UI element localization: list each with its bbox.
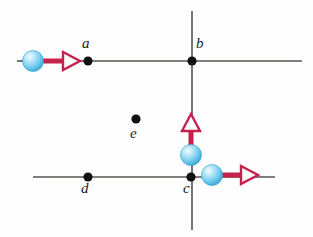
arrow-head <box>241 166 258 184</box>
arrow-head <box>182 114 200 131</box>
point-dot-e <box>131 114 140 123</box>
point-label-d: d <box>81 181 89 196</box>
axis-lines <box>21 11 302 230</box>
point-label-e: e <box>130 126 137 141</box>
point-dot-b <box>187 56 196 65</box>
point-dots <box>83 56 196 181</box>
point-label-a: a <box>82 36 90 51</box>
sphere-left-moving-right <box>23 51 44 72</box>
physics-diagram-figure: a b e c d <box>0 0 313 237</box>
sphere-right-of-c-moving-right <box>202 165 223 186</box>
point-label-c: c <box>183 181 190 196</box>
velocity-arrow-left-sphere <box>42 52 80 70</box>
diagram-canvas <box>0 0 313 237</box>
point-dot-a <box>83 56 92 65</box>
point-label-b: b <box>196 36 204 51</box>
sphere-below-b-moving-up <box>181 145 202 166</box>
velocity-arrow-right-sphere <box>221 166 258 184</box>
arrow-head <box>63 52 80 70</box>
